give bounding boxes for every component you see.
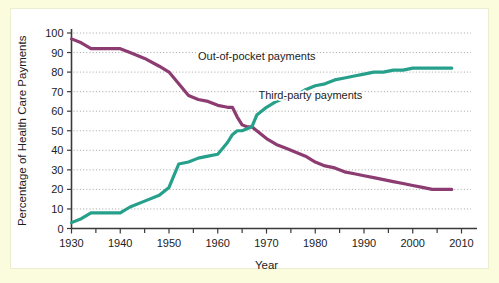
- x-axis-title: Year: [255, 259, 278, 271]
- figure-container: 0102030405060708090100 19301940195019601…: [0, 0, 499, 283]
- y-tick-label-50: 50: [51, 125, 63, 137]
- y-tick-label-20: 20: [51, 183, 63, 195]
- x-tick-label-2010: 2010: [449, 237, 473, 249]
- series-annotations-group: Out-of-pocket paymentsOut-of-pocket paym…: [198, 50, 363, 101]
- line-chart-svg: 0102030405060708090100 19301940195019601…: [0, 0, 499, 283]
- x-tick-label-1940: 1940: [108, 237, 132, 249]
- x-tick-label-1930: 1930: [59, 237, 83, 249]
- x-tick-label-1960: 1960: [206, 237, 230, 249]
- x-tick-label-2000: 2000: [401, 237, 425, 249]
- y-axis-title: Percentage of Health Care Payments: [16, 35, 28, 226]
- y-tick-label-80: 80: [51, 66, 63, 78]
- chart-plot-area: 0102030405060708090100 19301940195019601…: [0, 0, 499, 283]
- x-tick-labels-group: 193019401950196019701980199020002010: [59, 237, 473, 249]
- y-tick-label-90: 90: [51, 47, 63, 59]
- y-tick-labels-group: 0102030405060708090100: [45, 27, 63, 235]
- x-tick-label-1950: 1950: [157, 237, 181, 249]
- x-tick-label-1980: 1980: [303, 237, 327, 249]
- series-label-third-party-payments: Third-party payments: [258, 89, 362, 101]
- series-label-out-of-pocket-payments: Out-of-pocket payments: [198, 50, 316, 62]
- y-tick-label-70: 70: [51, 86, 63, 98]
- y-tick-label-30: 30: [51, 164, 63, 176]
- x-tick-label-1990: 1990: [352, 237, 376, 249]
- y-tick-label-40: 40: [51, 144, 63, 156]
- x-tick-label-1970: 1970: [254, 237, 278, 249]
- y-tick-label-60: 60: [51, 105, 63, 117]
- y-tick-label-10: 10: [51, 203, 63, 215]
- y-tick-label-0: 0: [57, 223, 63, 235]
- y-tick-label-100: 100: [45, 27, 63, 39]
